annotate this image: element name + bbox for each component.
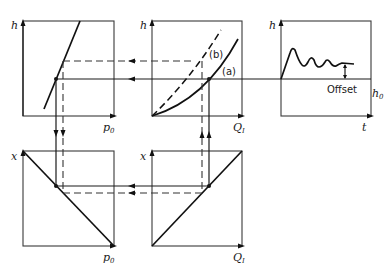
panel-bottom-left: x p0: [11, 149, 117, 265]
y-axis-label: h: [11, 19, 18, 32]
panel-top-left: h p0: [11, 19, 117, 135]
curve-b-label: (b): [209, 49, 223, 60]
panel-top-right: h t h0 Offset: [269, 19, 384, 134]
curve-b: [152, 30, 221, 116]
y-axis-label: h: [269, 19, 276, 32]
control-loop-diagram: h p0 h QI (b) (a) h t h0 Offset: [0, 0, 387, 278]
arrow-down-icon: [61, 130, 66, 137]
curve-a: [152, 39, 238, 116]
arrow-left-icon: [128, 184, 135, 189]
x-axis-label: QI: [233, 251, 245, 265]
connectors-dashed: [63, 61, 202, 193]
x-axis-label: QI: [233, 121, 245, 135]
damped-response-curve: [281, 49, 354, 79]
y-axis-arrow-icon: [150, 19, 155, 26]
curve-linear: [44, 21, 80, 109]
x-axis-label: p0: [103, 121, 115, 135]
x-axis-label: t: [362, 121, 367, 134]
arrow-down-icon: [54, 130, 59, 137]
arrow-left-icon: [128, 59, 135, 64]
reference-label: h0: [372, 87, 384, 101]
y-axis-arrow-icon: [21, 19, 26, 26]
y-axis-label: x: [11, 150, 18, 163]
y-axis-arrow-icon: [279, 19, 284, 26]
arrow-left-icon: [128, 77, 135, 82]
curve-linear-falling: [23, 151, 114, 246]
y-axis-arrow-icon: [150, 149, 155, 156]
curve-linear-rising: [152, 151, 242, 246]
x-axis-label: p0: [103, 251, 115, 265]
arrow-up-icon: [207, 131, 212, 138]
arrow-left-icon: [128, 191, 135, 196]
curve-a-label: (a): [222, 66, 236, 77]
panel-top-middle: h QI (b) (a): [140, 19, 245, 135]
arrow-up-icon: [200, 131, 205, 138]
y-axis-label: x: [140, 150, 147, 163]
offset-label: Offset: [327, 84, 357, 95]
panel-bottom-middle: x QI: [140, 149, 245, 265]
y-axis-label: h: [140, 19, 147, 32]
